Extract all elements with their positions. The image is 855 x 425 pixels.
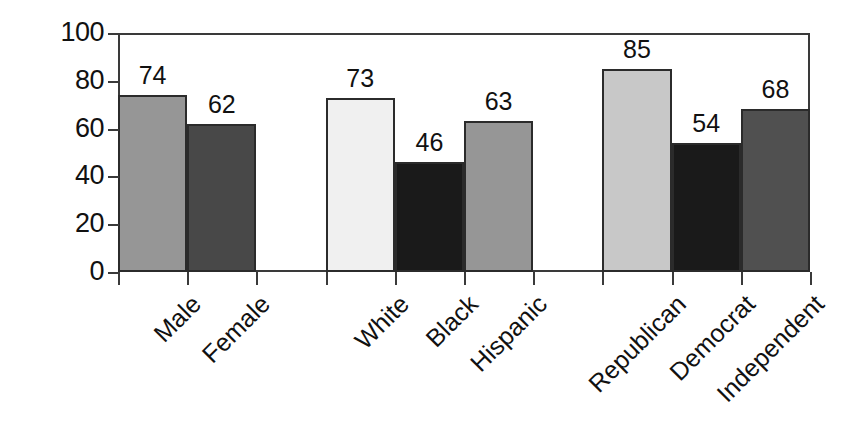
bar-value-label: 68	[721, 77, 830, 102]
x-tick-mark	[672, 272, 674, 285]
x-tick-mark	[810, 272, 812, 285]
y-tick-mark	[108, 176, 119, 178]
y-tick-mark	[108, 33, 119, 35]
y-tick-mark	[108, 129, 119, 131]
x-tick-mark	[741, 272, 743, 285]
bar-value-label: 73	[306, 66, 415, 91]
bar-democrat[interactable]	[672, 143, 741, 272]
x-tick-mark	[533, 272, 535, 285]
bar-male[interactable]	[118, 95, 187, 272]
bar-value-label: 85	[582, 37, 691, 62]
bar-value-label: 74	[98, 63, 207, 88]
y-tick-mark	[108, 81, 119, 83]
x-tick-mark	[395, 272, 397, 285]
x-tick-mark	[256, 272, 258, 285]
x-tick-mark	[118, 272, 120, 285]
x-tick-mark	[602, 272, 604, 285]
x-tick-mark	[326, 272, 328, 285]
bar-independent[interactable]	[741, 109, 810, 272]
bar-white[interactable]	[326, 98, 395, 272]
bar-chart: 100806040200 7462734663855468 MaleFemale…	[0, 0, 855, 425]
bar-female[interactable]	[187, 124, 256, 272]
y-tick-mark	[108, 224, 119, 226]
x-tick-mark	[187, 272, 189, 285]
bar-value-label: 63	[444, 89, 553, 114]
bar-republican[interactable]	[602, 69, 671, 272]
bar-hispanic[interactable]	[464, 121, 533, 272]
bar-value-label: 62	[167, 92, 276, 117]
bar-black[interactable]	[395, 162, 464, 272]
x-tick-mark	[464, 272, 466, 285]
